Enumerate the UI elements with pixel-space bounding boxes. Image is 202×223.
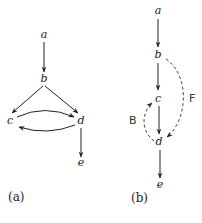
node-d: d (77, 114, 84, 127)
node-b: b (154, 48, 161, 61)
node-d: d (155, 135, 162, 148)
edge-label-f: F (189, 92, 195, 105)
edge-d-c-back (144, 103, 154, 141)
caption-a: (a) (8, 190, 25, 204)
node-e: e (78, 156, 85, 169)
node-a: a (155, 4, 162, 17)
node-c: c (155, 92, 161, 105)
edge-b-d-forward (166, 59, 183, 137)
caption-b: (b) (131, 191, 148, 205)
diagram-b: a b c d e F B (b) (129, 4, 195, 205)
diagram-canvas: a b c d e (a) a b c d e F B (b) (0, 0, 202, 223)
node-e: e (157, 178, 164, 191)
edge-label-b: B (129, 114, 137, 127)
edge-d-c (19, 125, 75, 131)
node-b: b (40, 72, 47, 85)
diagram-a: a b c d e (a) (7, 28, 85, 204)
edge-b-d (45, 86, 78, 113)
edge-b-c (12, 86, 43, 113)
edge-c-d (17, 111, 74, 118)
node-a: a (41, 28, 48, 41)
node-c: c (7, 114, 13, 127)
